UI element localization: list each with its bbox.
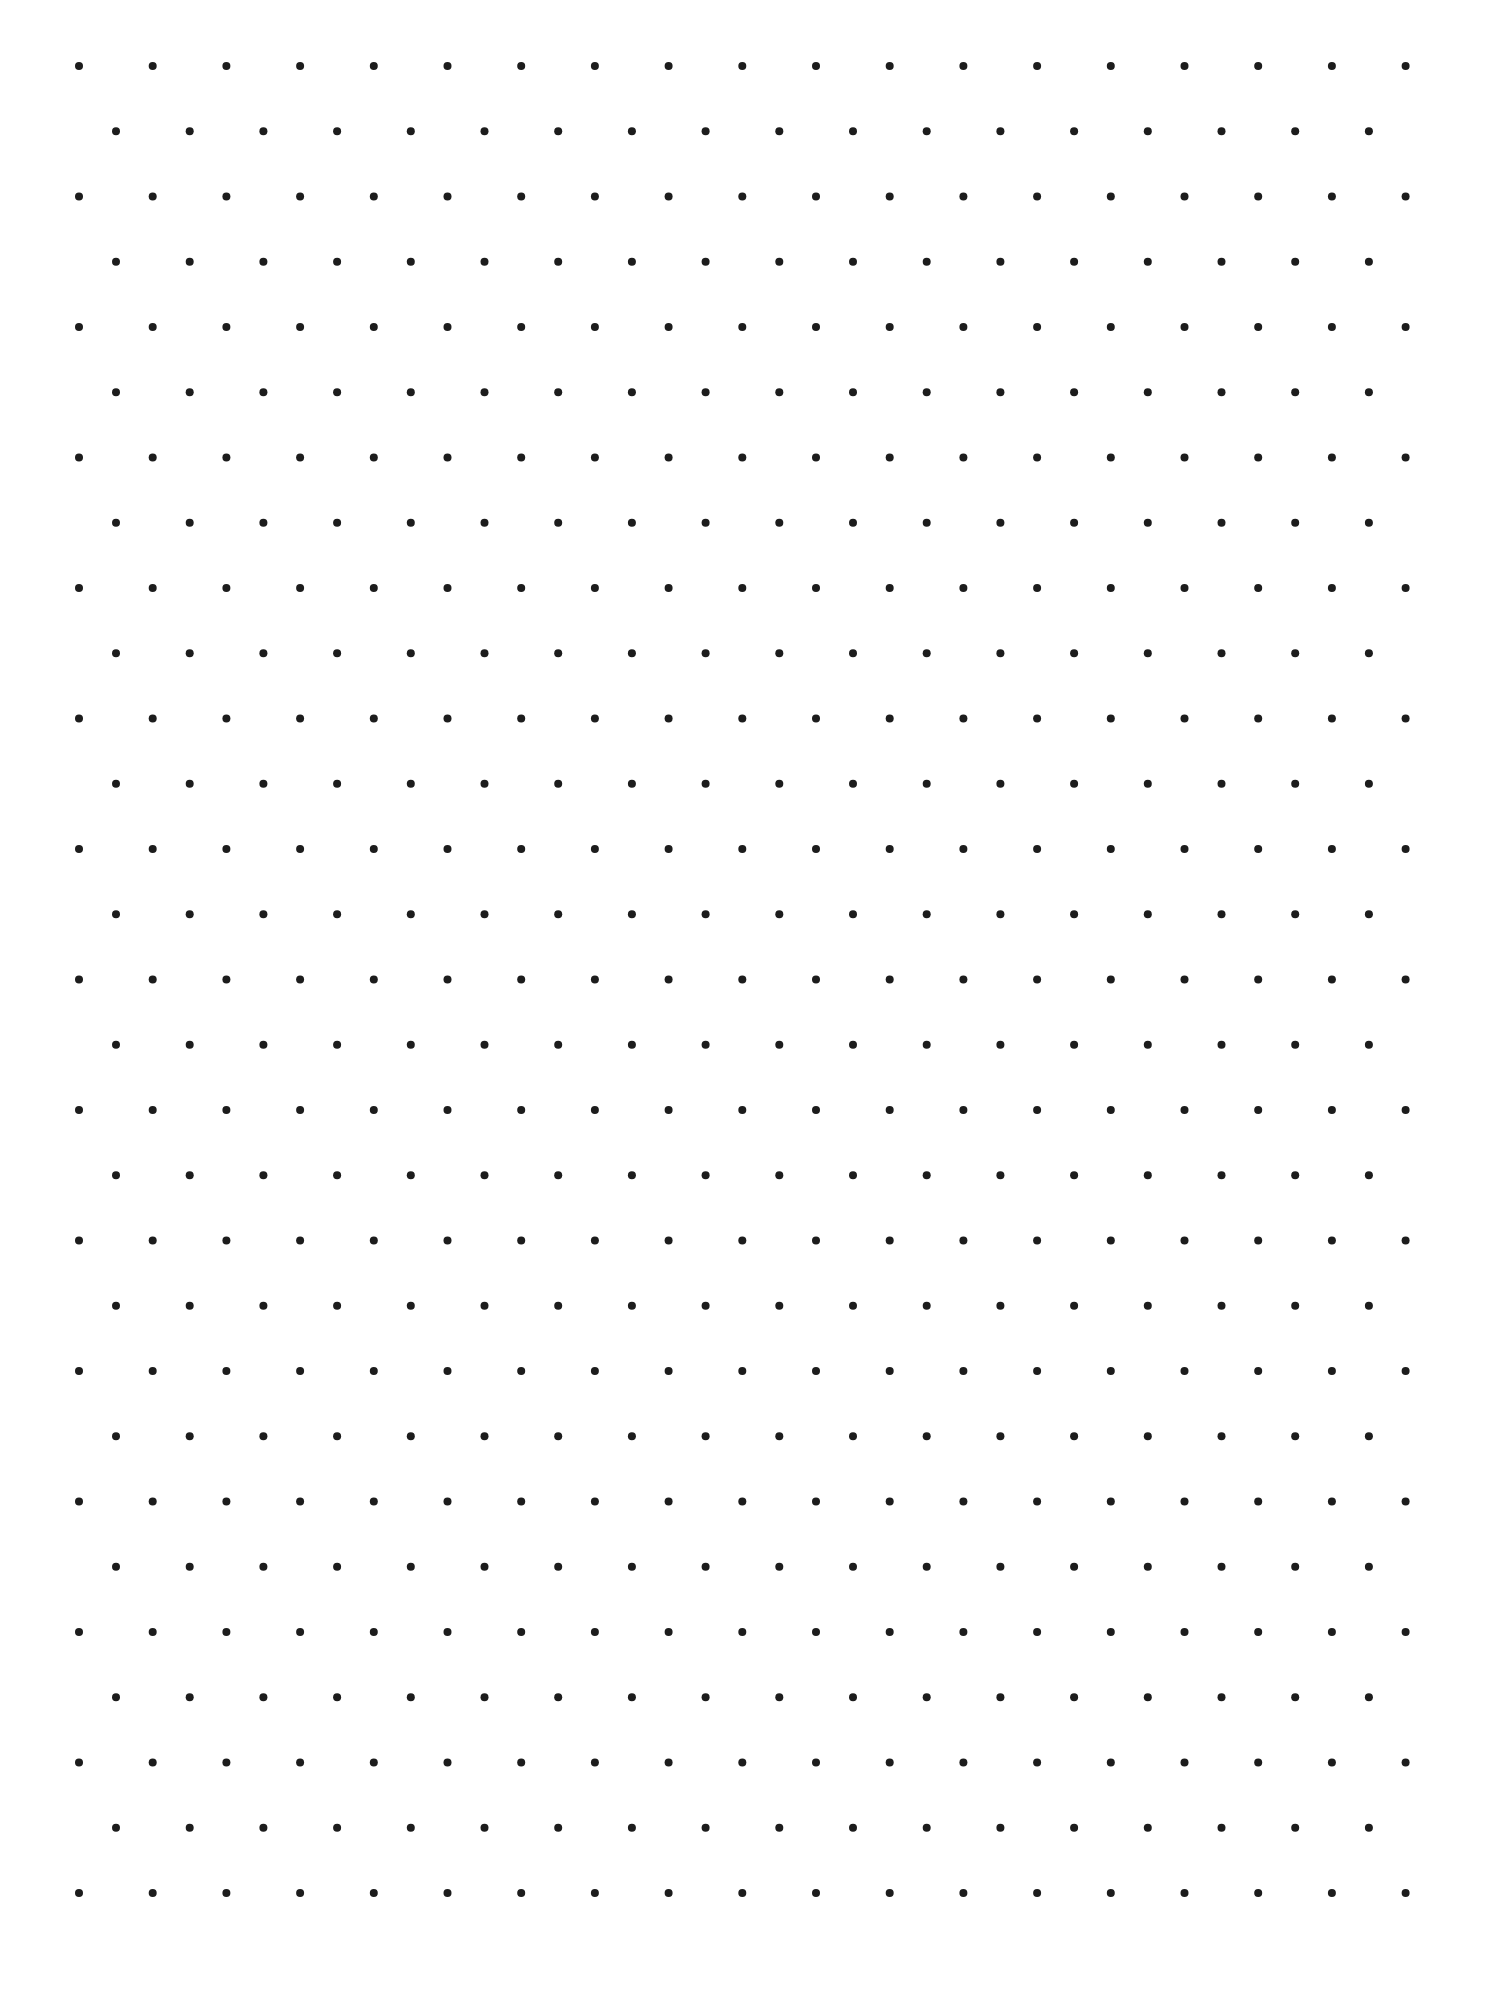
grid-dot: [849, 1171, 857, 1179]
grid-dot: [1033, 1237, 1041, 1245]
grid-dot: [886, 584, 894, 592]
grid-dot: [628, 910, 636, 918]
grid-dot: [1070, 780, 1078, 788]
grid-dot: [186, 910, 194, 918]
grid-dot: [1365, 1693, 1373, 1701]
grid-dot: [517, 193, 525, 201]
grid-dot: [996, 1693, 1004, 1701]
grid-dot: [444, 1498, 452, 1506]
dot-row: [75, 715, 1410, 723]
grid-dot: [75, 1367, 83, 1375]
grid-dot: [886, 976, 894, 984]
dot-row: [75, 193, 1410, 201]
grid-dot: [444, 976, 452, 984]
grid-dot: [333, 1693, 341, 1701]
grid-dot: [481, 1824, 489, 1832]
grid-dot: [812, 454, 820, 462]
grid-dot: [296, 1237, 304, 1245]
grid-dot: [1107, 1498, 1115, 1506]
grid-dot: [75, 976, 83, 984]
grid-dot: [1107, 1759, 1115, 1767]
grid-dot: [259, 1563, 267, 1571]
grid-dot: [738, 323, 746, 331]
grid-dot: [775, 1171, 783, 1179]
dot-row: [112, 1693, 1373, 1701]
grid-dot: [259, 519, 267, 527]
grid-dot: [296, 715, 304, 723]
grid-dot: [1402, 454, 1410, 462]
grid-dot: [1144, 1693, 1152, 1701]
grid-dot: [222, 1759, 230, 1767]
grid-dot: [1365, 1824, 1373, 1832]
dot-row: [75, 845, 1410, 853]
grid-dot: [112, 1302, 120, 1310]
grid-dot: [591, 584, 599, 592]
grid-dot: [1144, 1824, 1152, 1832]
grid-dot: [1033, 976, 1041, 984]
grid-dot: [1218, 1693, 1226, 1701]
grid-dot: [959, 1367, 967, 1375]
grid-dot: [333, 780, 341, 788]
grid-dot: [738, 584, 746, 592]
grid-dot: [1070, 1171, 1078, 1179]
grid-dot: [222, 715, 230, 723]
grid-dot: [1218, 1432, 1226, 1440]
grid-dot: [444, 323, 452, 331]
grid-dot: [259, 1171, 267, 1179]
grid-dot: [75, 323, 83, 331]
grid-dot: [959, 1498, 967, 1506]
grid-dot: [481, 519, 489, 527]
grid-dot: [75, 584, 83, 592]
grid-dot: [1107, 323, 1115, 331]
grid-dot: [959, 845, 967, 853]
grid-dot: [738, 193, 746, 201]
grid-dot: [886, 715, 894, 723]
grid-dot: [996, 649, 1004, 657]
grid-dot: [1328, 193, 1336, 201]
grid-dot: [149, 1498, 157, 1506]
grid-dot: [186, 1432, 194, 1440]
grid-dot: [775, 519, 783, 527]
dot-row: [112, 649, 1373, 657]
grid-dot: [1291, 780, 1299, 788]
grid-dot: [370, 1759, 378, 1767]
grid-dot: [702, 910, 710, 918]
grid-dot: [333, 1302, 341, 1310]
grid-dot: [628, 519, 636, 527]
grid-dot: [1328, 1498, 1336, 1506]
grid-dot: [1402, 845, 1410, 853]
grid-dot: [702, 127, 710, 135]
grid-dot: [1402, 1237, 1410, 1245]
grid-dot: [1033, 584, 1041, 592]
grid-dot: [407, 1563, 415, 1571]
grid-dot: [1291, 258, 1299, 266]
dot-row: [75, 1237, 1410, 1245]
grid-dot: [1181, 193, 1189, 201]
grid-dot: [665, 62, 673, 70]
grid-dot: [517, 845, 525, 853]
grid-dot: [591, 1367, 599, 1375]
grid-dot: [628, 649, 636, 657]
grid-dot: [886, 1498, 894, 1506]
grid-dot: [849, 258, 857, 266]
dot-row: [75, 976, 1410, 984]
grid-dot: [1402, 323, 1410, 331]
grid-dot: [112, 780, 120, 788]
grid-dot: [923, 910, 931, 918]
grid-dot: [665, 1367, 673, 1375]
grid-dot: [923, 649, 931, 657]
grid-dot: [591, 1628, 599, 1636]
grid-dot: [370, 1498, 378, 1506]
grid-dot: [775, 1693, 783, 1701]
grid-dot: [628, 1693, 636, 1701]
grid-dot: [1033, 715, 1041, 723]
grid-dot: [1107, 454, 1115, 462]
grid-dot: [1254, 1367, 1262, 1375]
grid-dot: [1402, 1889, 1410, 1897]
grid-dot: [149, 584, 157, 592]
grid-dot: [333, 1171, 341, 1179]
grid-dot: [1365, 649, 1373, 657]
grid-dot: [1181, 845, 1189, 853]
grid-dot: [370, 323, 378, 331]
grid-dot: [149, 454, 157, 462]
